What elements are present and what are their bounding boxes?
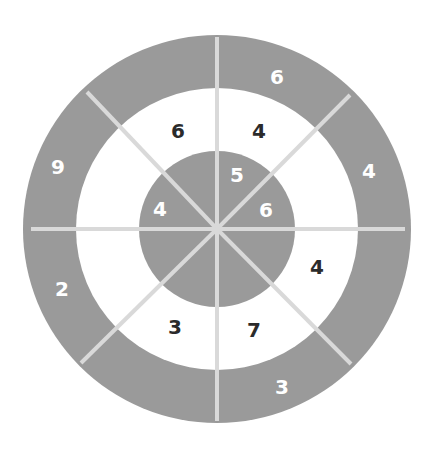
inner-number: 4 [145,199,175,219]
outer-number: 9 [43,157,73,177]
middle-number: 4 [244,121,274,141]
outer-number: 6 [262,67,292,87]
ring-graphic [0,0,430,450]
middle-number: 6 [163,121,193,141]
middle-number: 4 [302,257,332,277]
outer-number: 3 [267,377,297,397]
middle-number: 7 [239,320,269,340]
outer-number: 2 [47,279,77,299]
inner-number: 5 [222,165,252,185]
middle-number: 3 [160,317,190,337]
outer-number: 4 [354,161,384,181]
inner-number: 6 [251,200,281,220]
ring-puzzle-diagram: 6 4 3 2 9 6 4 4 7 3 5 6 4 [0,0,430,450]
